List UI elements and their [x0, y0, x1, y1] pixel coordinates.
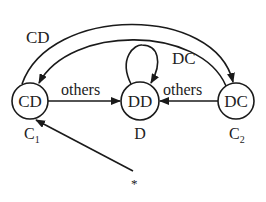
edge-label-dc: DC: [172, 49, 196, 68]
self-loop-d: [126, 45, 157, 84]
start-edge: [36, 120, 133, 171]
node-d: DD D: [121, 82, 159, 142]
edge-label-others-right: others: [163, 81, 202, 98]
node-c2-label: DC: [224, 92, 248, 111]
node-d-label: DD: [128, 92, 153, 111]
node-c2: DC C2: [218, 83, 254, 145]
node-c1: CD C1: [12, 83, 48, 145]
node-c1-label: CD: [18, 92, 42, 111]
start-marker: *: [131, 176, 138, 191]
node-c1-caption: C1: [24, 125, 40, 145]
edge-c2-to-c1-arc: [39, 40, 226, 86]
node-d-caption: D: [134, 125, 146, 142]
state-diagram: CD DC others others * CD C1 DD D DC C2: [0, 0, 266, 202]
edge-label-others-left: others: [61, 81, 100, 98]
edge-label-cd: CD: [26, 28, 50, 47]
node-c2-caption: C2: [229, 125, 245, 145]
